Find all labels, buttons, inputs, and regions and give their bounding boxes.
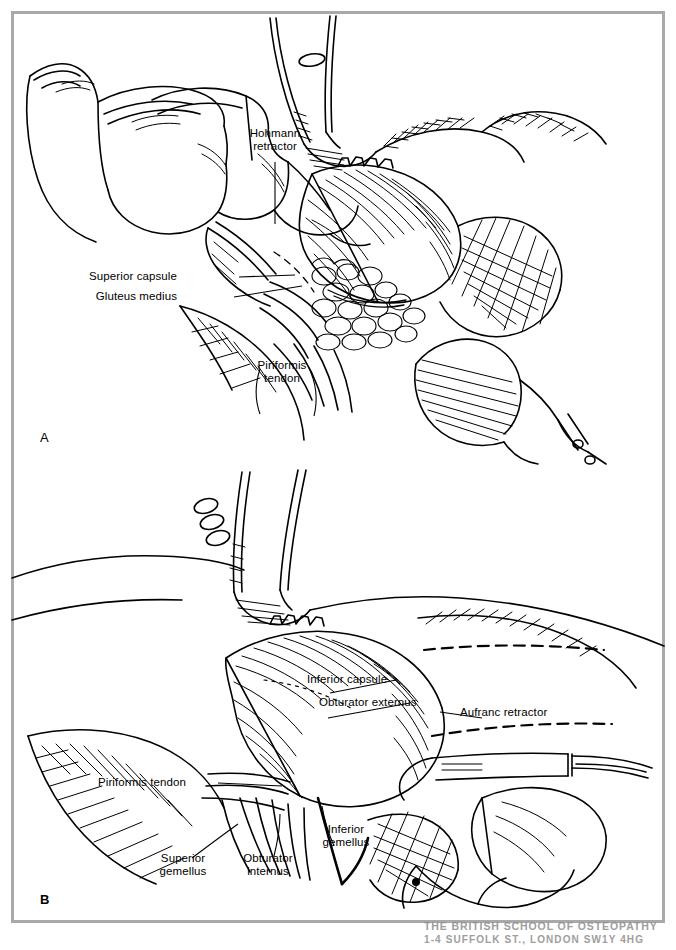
label-gluteus-medius: Gluteus medius [70,290,177,303]
label-aufranc-retractor: Aufranc retractor [460,706,580,719]
label-inferior-capsule: Inferior capsule [307,673,412,686]
panel-letter-b: B [40,892,49,907]
library-stamp-line-1: THE BRITISH SCHOOL OF OSTEOPATHY [424,919,676,933]
page-background: Hohmann retractor Superior capsule Glute… [0,0,676,950]
label-inferior-gemellus: Inferior gemellus [310,823,382,849]
figure-panel-b: Inferior capsule Obturator externus Aufr… [12,468,664,908]
label-obturator-externus: Obturator externus [319,696,441,709]
label-piriformis-tendon: Piriformis tendon [240,359,324,385]
panel-letter-a: A [40,430,49,445]
label-superior-gemellus: Superior gemellus [145,852,221,878]
label-superior-capsule: Superior capsule [72,270,177,283]
panel-a-leader-lines [12,14,664,464]
figure-panel-a: Hohmann retractor Superior capsule Glute… [12,14,664,464]
library-stamp: THE BRITISH SCHOOL OF OSTEOPATHY 1-4 SUF… [424,919,676,947]
label-obturator-internus: Obturator internus [228,852,308,878]
label-piriformis-tendon-b: Piriformis tendon [74,776,186,789]
library-stamp-line-2: 1-4 SUFFOLK ST., LONDON SW1Y 4HG [424,933,676,947]
